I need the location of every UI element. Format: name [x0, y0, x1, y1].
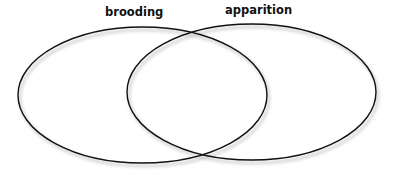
set-shadow-apparition: [129, 27, 378, 163]
venn-diagram: brooding apparition: [0, 0, 393, 172]
shadow-layer: [20, 27, 378, 166]
set-label-brooding: brooding: [105, 5, 163, 19]
set-label-apparition: apparition: [225, 3, 292, 17]
set-shadow-brooding: [20, 30, 269, 166]
